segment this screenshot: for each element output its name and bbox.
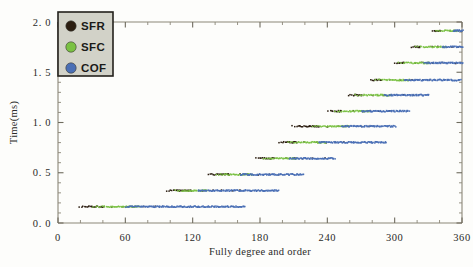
data-point (378, 142, 380, 144)
data-point (348, 111, 350, 113)
data-point (298, 142, 300, 144)
data-point (303, 174, 305, 176)
data-point (227, 174, 229, 176)
data-point (231, 174, 233, 176)
data-point (370, 79, 372, 81)
data-point (205, 206, 207, 208)
data-point (85, 206, 87, 208)
data-point (278, 142, 280, 144)
data-point (334, 158, 336, 160)
data-point (371, 94, 373, 96)
data-point (382, 94, 384, 96)
data-point (387, 95, 389, 97)
data-point (445, 79, 447, 81)
data-point (264, 174, 266, 176)
data-point (460, 79, 462, 81)
data-point (334, 111, 336, 113)
data-point (151, 206, 153, 208)
data-point (265, 158, 267, 160)
data-point (377, 110, 379, 112)
data-point (389, 95, 391, 97)
data-point (399, 79, 401, 81)
data-point (222, 174, 224, 176)
data-point (379, 126, 381, 128)
data-point (210, 173, 212, 175)
data-point (324, 141, 326, 143)
y-tick-label: 2. 0 (33, 17, 51, 28)
data-point (434, 46, 436, 48)
data-point (216, 174, 218, 176)
data-point (398, 94, 400, 96)
data-point (428, 94, 430, 96)
data-point (104, 205, 106, 207)
data-point (345, 125, 347, 127)
data-point (229, 190, 231, 192)
legend-label-sfr: SFR (81, 20, 105, 32)
data-point (439, 30, 441, 32)
data-point (374, 126, 376, 128)
data-point (312, 126, 314, 128)
data-point (364, 94, 366, 96)
data-point (200, 190, 202, 192)
data-point (395, 95, 397, 97)
data-point (171, 190, 173, 192)
data-point (415, 46, 417, 48)
data-point (326, 141, 328, 143)
data-point (185, 190, 187, 192)
data-point (459, 79, 461, 81)
data-point (362, 141, 364, 143)
data-point (433, 63, 435, 65)
data-point (87, 206, 89, 208)
data-point (284, 158, 286, 160)
data-point (177, 190, 179, 192)
data-point (381, 111, 383, 113)
data-point (437, 30, 439, 32)
data-point (349, 94, 351, 96)
data-point (449, 79, 451, 81)
data-point (260, 174, 262, 176)
data-point (329, 141, 331, 143)
data-point (211, 205, 213, 207)
data-point (438, 46, 440, 48)
data-point (299, 126, 301, 128)
data-point (420, 46, 422, 48)
x-axis-label: Fully degree and order (209, 246, 311, 257)
legend-marker-sfr (66, 21, 76, 31)
data-point (231, 205, 233, 207)
data-point (405, 95, 407, 97)
y-axis-label: Time(ms) (8, 101, 20, 145)
data-point (283, 141, 285, 143)
data-point (284, 174, 286, 176)
data-point (179, 190, 181, 192)
data-point (404, 62, 406, 64)
data-point (303, 125, 305, 127)
data-point (335, 141, 337, 143)
data-point (406, 79, 408, 81)
data-point (412, 63, 414, 64)
data-point (419, 79, 421, 81)
data-point (187, 190, 189, 192)
data-point (88, 205, 90, 207)
y-tick-label: 1. 0 (33, 117, 51, 128)
data-point (278, 190, 280, 192)
data-point (411, 47, 413, 49)
data-point (367, 126, 369, 128)
data-point (159, 207, 161, 209)
data-point (163, 206, 165, 208)
y-tick-label: 0. 5 (33, 167, 51, 178)
data-point (430, 79, 432, 81)
data-point (245, 189, 247, 191)
y-tick-label: 0. 0 (33, 218, 51, 229)
data-point (301, 174, 303, 176)
data-point (461, 30, 463, 32)
data-point (400, 62, 402, 64)
series-sfc (92, 29, 459, 208)
x-tick-label: 240 (319, 232, 337, 243)
legend-marker-sfc (66, 42, 76, 52)
data-point (440, 46, 442, 48)
x-tick-label: 360 (453, 232, 471, 243)
data-point (379, 79, 381, 81)
data-point (462, 62, 464, 64)
data-point (302, 126, 304, 128)
data-point (373, 94, 375, 96)
